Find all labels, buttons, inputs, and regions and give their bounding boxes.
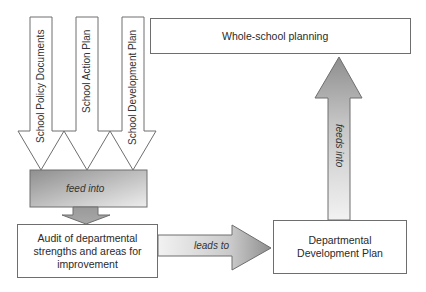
audit-box: Audit of departmental strengths and area…	[17, 224, 158, 278]
input-label-1: School Policy Documents	[35, 30, 46, 143]
audit-box-label: Audit of departmental strengths and area…	[29, 232, 147, 271]
feeds-into-label: feeds into	[334, 124, 345, 167]
input-label-3: School Development Plan	[127, 30, 138, 145]
whole-school-box: Whole-school planning	[150, 18, 411, 54]
departmental-plan-box: Departmental Development Plan	[273, 220, 407, 274]
whole-school-label: Whole-school planning	[222, 30, 328, 43]
leads-to-label: leads to	[194, 240, 229, 251]
departmental-plan-label: Departmental Development Plan	[292, 234, 388, 260]
down-arrow	[62, 207, 110, 224]
feed-into-label: feed into	[66, 183, 104, 194]
input-label-2: School Action Plan	[81, 30, 92, 113]
